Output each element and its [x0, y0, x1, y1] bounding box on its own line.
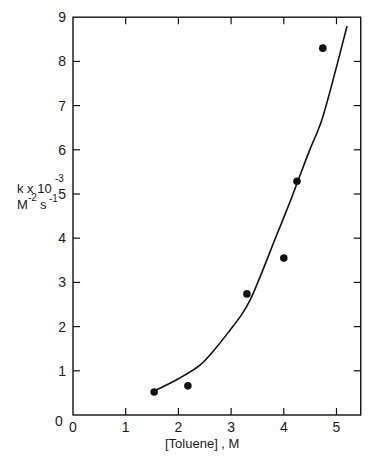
y-axis-label: k x 10 -3 M -2 s -1: [17, 173, 64, 212]
y-tick-label: 9: [58, 9, 66, 25]
x-axis-label: [Toluene] , M: [165, 436, 239, 451]
x-tick-labels: 012345: [69, 419, 341, 435]
axis-ticks: [73, 17, 361, 415]
data-point: [280, 254, 288, 262]
y-tick-label: 8: [58, 53, 66, 69]
data-points: [150, 44, 326, 395]
fit-curve: [157, 26, 347, 390]
x-tick-label: 2: [175, 419, 183, 435]
x-tick-label: 1: [122, 419, 130, 435]
y-axis-label-exp1: -3: [55, 173, 64, 184]
plot-border: [73, 17, 361, 415]
plot-frame: [73, 17, 361, 415]
data-point: [319, 44, 327, 52]
y-tick-label: 1: [58, 363, 66, 379]
y-tick-label: 2: [58, 319, 66, 335]
y-axis-label-line2-m: M: [17, 197, 28, 212]
chart: 012345 123456789 0 k x 10 -3 M -2 s -1 […: [0, 0, 379, 463]
x-tick-label: 0: [69, 419, 77, 435]
data-point: [150, 388, 158, 396]
fit-curve-path: [157, 26, 347, 390]
data-point: [293, 177, 301, 185]
x-tick-label: 3: [227, 419, 235, 435]
x-tick-label: 4: [280, 419, 288, 435]
origin-y-label: 0: [55, 413, 63, 429]
y-axis-label-exp3: -1: [49, 193, 58, 204]
y-axis-label-exp2: -2: [28, 192, 37, 203]
y-tick-label: 7: [58, 98, 66, 114]
y-tick-label: 6: [58, 142, 66, 158]
y-tick-label: 4: [58, 230, 66, 246]
data-point: [184, 382, 192, 390]
y-tick-label: 3: [58, 274, 66, 290]
x-tick-label: 5: [333, 419, 341, 435]
y-tick-label: 5: [58, 186, 66, 202]
y-tick-labels: 123456789: [58, 9, 66, 379]
y-axis-label-line2-s: s: [40, 197, 47, 212]
data-point: [243, 290, 251, 298]
